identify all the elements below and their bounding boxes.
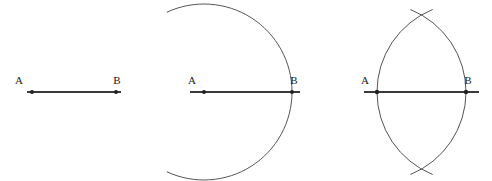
point-a-dot: [375, 90, 379, 94]
canvas-background: [0, 0, 492, 181]
point-b-dot: [464, 90, 468, 94]
point-b-dot: [114, 90, 118, 94]
point-a-dot: [30, 90, 34, 94]
point-a-dot: [202, 90, 206, 94]
point-a-label: A: [188, 74, 196, 86]
point-b-label: B: [290, 74, 297, 86]
point-a-label: A: [15, 74, 23, 86]
point-b-label: B: [113, 74, 120, 86]
point-b-dot: [290, 90, 294, 94]
point-a-label: A: [361, 74, 369, 86]
point-b-label: B: [464, 74, 471, 86]
geometry-canvas: A B A B A B: [0, 0, 492, 181]
construction-figure: A B A B A B: [0, 0, 492, 181]
